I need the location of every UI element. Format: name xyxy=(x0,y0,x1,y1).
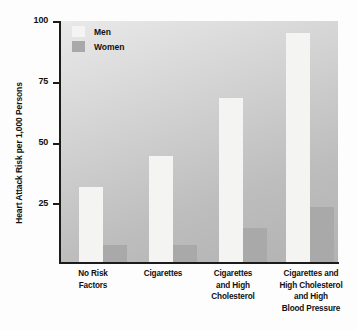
x-label-line: Factors xyxy=(58,280,128,292)
bar-men-cigarettes-high-cholesterol xyxy=(219,98,243,262)
y-tick-label-50: 50 xyxy=(8,137,48,147)
legend-label-women: Women xyxy=(94,42,125,52)
x-label-line: and High xyxy=(196,280,270,292)
chart-legend: Men Women xyxy=(72,24,125,54)
chart-figure: Heart Attack Risk per 1,000 Persons 100 … xyxy=(0,0,357,330)
legend-item-women: Women xyxy=(72,39,125,54)
x-label-line: Cigarettes xyxy=(196,268,270,280)
bar-men-no-risk-factors xyxy=(79,187,103,262)
bar-women-cigarettes xyxy=(173,245,197,262)
legend-swatch-women-icon xyxy=(72,41,85,52)
x-label-line: and High xyxy=(268,291,354,303)
plot-area xyxy=(60,21,338,262)
x-axis-line xyxy=(59,262,339,264)
legend-swatch-men-icon xyxy=(72,26,85,37)
legend-item-men: Men xyxy=(72,24,125,39)
y-axis-line xyxy=(59,21,61,264)
bar-men-cigarettes-high-cholesterol-high-bp xyxy=(286,33,310,262)
x-label-cigarettes: Cigarettes xyxy=(128,268,198,280)
x-label-line: High Cholesterol xyxy=(268,280,354,292)
y-tick-label-100: 100 xyxy=(8,15,48,25)
x-label-line: Cigarettes xyxy=(128,268,198,280)
bar-women-cigarettes-high-cholesterol xyxy=(243,228,267,262)
bar-women-no-risk-factors xyxy=(103,245,127,262)
bar-women-cigarettes-high-cholesterol-high-bp xyxy=(310,207,334,262)
x-label-line: Cholesterol xyxy=(196,291,270,303)
x-label-no-risk-factors: No Risk Factors xyxy=(58,268,128,291)
y-tick-label-75: 75 xyxy=(8,76,48,86)
legend-label-men: Men xyxy=(94,27,111,37)
x-label-line: No Risk xyxy=(58,268,128,280)
y-tick-label-25: 25 xyxy=(8,198,48,208)
x-label-cigarettes-high-cholesterol-high-bp: Cigarettes and High Cholesterol and High… xyxy=(268,268,354,314)
bar-men-cigarettes xyxy=(149,156,173,262)
x-label-cigarettes-high-cholesterol: Cigarettes and High Cholesterol xyxy=(196,268,270,303)
x-label-line: Blood Pressure xyxy=(268,303,354,315)
x-label-line: Cigarettes and xyxy=(268,268,354,280)
